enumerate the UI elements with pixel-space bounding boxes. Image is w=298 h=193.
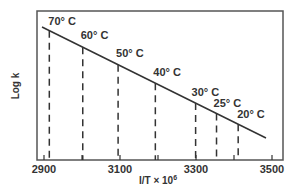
x-tick-labels: 2900310033003500: [32, 163, 284, 175]
x-axis-label-base: I/T × 10: [139, 175, 174, 186]
x-tick-label: 3500: [260, 163, 284, 175]
point-labels: 70° C60° C50° C40° C30° C25° C20° C: [48, 15, 265, 121]
regression-line: [42, 27, 266, 138]
temperature-label: 40° C: [153, 66, 181, 78]
temperature-label: 30° C: [192, 86, 220, 98]
temperature-label: 50° C: [116, 47, 144, 59]
temperature-label: 20° C: [237, 108, 265, 120]
x-tick-label: 2900: [32, 163, 56, 175]
x-tick-label: 3300: [184, 163, 208, 175]
temperature-label: 60° C: [81, 29, 109, 41]
temperature-label: 70° C: [48, 15, 76, 27]
y-axis-label: Log k: [10, 72, 21, 99]
x-axis-label-exponent: 6: [173, 174, 177, 181]
x-tick-label: 3100: [108, 163, 132, 175]
chart: 70° C60° C50° C40° C30° C25° C20° C 2900…: [0, 0, 298, 193]
x-axis-label: I/T × 106: [139, 174, 177, 186]
